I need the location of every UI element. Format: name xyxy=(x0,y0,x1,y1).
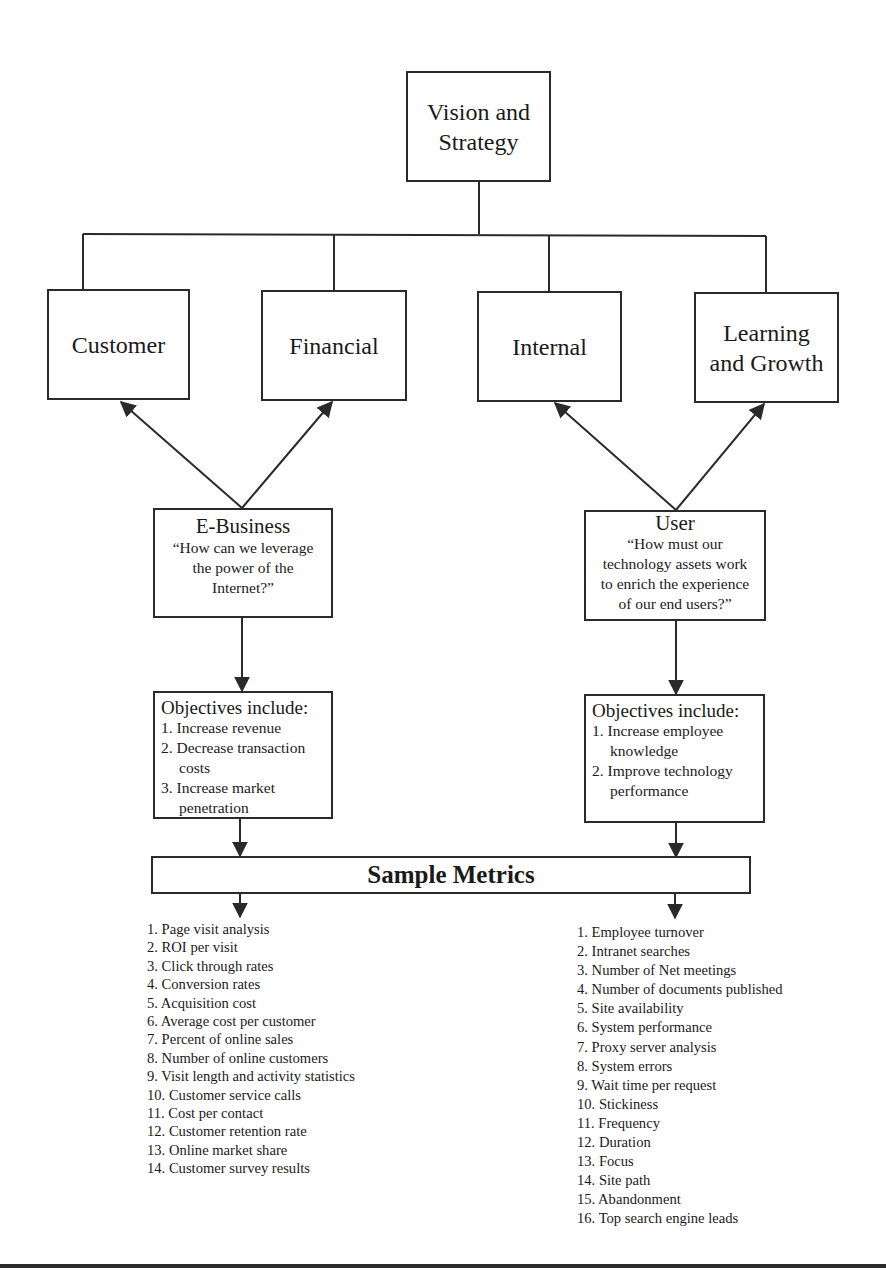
metric-item: 3. Number of Net meetings xyxy=(577,961,783,980)
metric-item: 5. Site availability xyxy=(577,999,783,1018)
customer-label: Customer xyxy=(72,330,165,360)
user-objective-item: 2. Improve technology performance xyxy=(592,761,757,801)
user-objectives-box: Objectives include: 1. Increase employee… xyxy=(584,694,765,823)
ebusiness-title: E-Business xyxy=(196,514,291,538)
metric-item: 12. Customer retention rate xyxy=(147,1122,355,1140)
metric-item: 8. Number of online customers xyxy=(147,1049,355,1067)
ebusiness-question-line: “How can we leverage xyxy=(173,538,314,558)
ebusiness-box: E-Business “How can we leverage the powe… xyxy=(153,508,333,618)
metric-item: 5. Acquisition cost xyxy=(147,994,355,1012)
user-question-line: of our end users?” xyxy=(618,594,731,614)
learning-growth-label-1: Learning xyxy=(723,318,810,348)
metric-item: 7. Proxy server analysis xyxy=(577,1038,783,1057)
metric-item: 2. Intranet searches xyxy=(577,942,783,961)
metric-item: 8. System errors xyxy=(577,1057,783,1076)
sample-metrics-box: Sample Metrics xyxy=(151,856,751,894)
user-question-line: technology assets work xyxy=(603,554,748,574)
financial-label: Financial xyxy=(289,331,378,361)
ebusiness-objectives-heading: Objectives include: xyxy=(161,697,325,718)
metric-item: 16. Top search engine leads xyxy=(577,1209,783,1228)
metric-item: 10. Customer service calls xyxy=(147,1086,355,1104)
ebusiness-metrics-list: 1. Page visit analysis 2. ROI per visit … xyxy=(147,920,355,1178)
balanced-scorecard-diagram: Vision and Strategy Customer Financial I… xyxy=(0,0,886,1284)
user-objectives-heading: Objectives include: xyxy=(592,700,757,721)
metric-item: 1. Employee turnover xyxy=(577,923,783,942)
ebusiness-objectives-box: Objectives include: 1. Increase revenue … xyxy=(153,691,333,819)
vision-strategy-label-1: Vision and xyxy=(427,97,530,127)
metric-item: 1. Page visit analysis xyxy=(147,920,355,938)
user-box: User “How must our technology assets wor… xyxy=(584,510,766,621)
metric-item: 3. Click through rates xyxy=(147,957,355,975)
ebusiness-objective-item: 3. Increase market penetration xyxy=(161,778,325,818)
ebusiness-objective-item: 2. Decrease transaction costs xyxy=(161,738,325,778)
vision-strategy-label-2: Strategy xyxy=(439,127,519,157)
metric-item: 13. Online market share xyxy=(147,1141,355,1159)
user-objective-item: 1. Increase employee knowledge xyxy=(592,721,757,761)
learning-growth-label-2: and Growth xyxy=(710,348,824,378)
metric-item: 4. Conversion rates xyxy=(147,975,355,993)
metric-item: 14. Site path xyxy=(577,1171,783,1190)
ebusiness-question-line: Internet?” xyxy=(212,578,274,598)
internal-box: Internal xyxy=(477,291,622,402)
ebusiness-question-line: the power of the xyxy=(192,558,293,578)
internal-label: Internal xyxy=(512,332,587,362)
vision-strategy-box: Vision and Strategy xyxy=(406,71,551,182)
metric-item: 13. Focus xyxy=(577,1152,783,1171)
metric-item: 9. Visit length and activity statistics xyxy=(147,1067,355,1085)
user-metrics-list: 1. Employee turnover 2. Intranet searche… xyxy=(577,923,783,1229)
metric-item: 7. Percent of online sales xyxy=(147,1030,355,1048)
ebusiness-objective-item: 1. Increase revenue xyxy=(161,718,325,738)
metric-item: 11. Cost per contact xyxy=(147,1104,355,1122)
sample-metrics-title: Sample Metrics xyxy=(367,860,534,890)
user-question-line: “How must our xyxy=(627,534,723,554)
metric-item: 6. System performance xyxy=(577,1018,783,1037)
metric-item: 15. Abandonment xyxy=(577,1190,783,1209)
customer-box: Customer xyxy=(47,289,190,400)
learning-growth-box: Learning and Growth xyxy=(694,292,839,403)
metric-item: 2. ROI per visit xyxy=(147,938,355,956)
bottom-divider xyxy=(0,1264,886,1268)
financial-box: Financial xyxy=(261,290,407,401)
metric-item: 12. Duration xyxy=(577,1133,783,1152)
metric-item: 11. Frequency xyxy=(577,1114,783,1133)
metric-item: 6. Average cost per customer xyxy=(147,1012,355,1030)
user-question-line: to enrich the experience xyxy=(601,574,749,594)
metric-item: 10. Stickiness xyxy=(577,1095,783,1114)
user-title: User xyxy=(655,513,695,534)
metric-item: 4. Number of documents published xyxy=(577,980,783,999)
metric-item: 9. Wait time per request xyxy=(577,1076,783,1095)
metric-item: 14. Customer survey results xyxy=(147,1159,355,1177)
